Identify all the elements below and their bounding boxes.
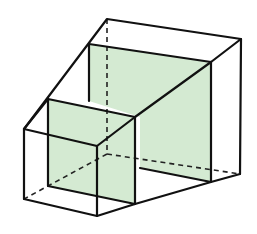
bottom-right-edge — [135, 174, 240, 204]
left-top-edge — [24, 99, 48, 129]
right-back-edge — [240, 39, 241, 174]
solid-diagram — [0, 0, 257, 234]
